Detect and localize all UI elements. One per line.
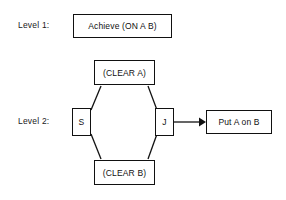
node-put-a-on-b[interactable]: Put A on B [206,110,272,134]
diagram-canvas: Level 1: Level 2: Achieve (ON A B) (CLEA… [0,0,286,200]
node-clear-b[interactable]: (CLEAR B) [94,160,155,185]
edge-s-to-clear-a [91,86,101,110]
node-achieve-on-a-b[interactable]: Achieve (ON A B) [73,14,172,38]
node-join[interactable]: J [155,108,174,136]
edge-clear-a-to-j [148,86,157,110]
level-2-label: Level 2: [18,116,49,126]
edge-s-to-clear-b [91,134,101,159]
edge-clear-b-to-j [148,134,157,159]
arrowhead-icon [199,118,206,127]
node-split[interactable]: S [72,108,91,136]
level-1-label: Level 1: [18,20,49,30]
node-clear-a[interactable]: (CLEAR A) [94,60,155,85]
